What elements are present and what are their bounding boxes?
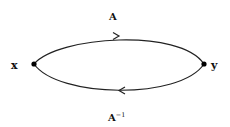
diagram-canvas: x y A A−1 (0, 0, 230, 127)
edge-lower-arc (34, 64, 204, 90)
node-y-dot (201, 61, 206, 66)
edge-upper-label: A (108, 11, 117, 22)
edge-upper-arc (34, 40, 204, 64)
edge-lower-label-base: A (107, 112, 116, 123)
node-x-label: x (11, 59, 18, 72)
edge-lower-label-sup: −1 (116, 111, 126, 119)
node-y-label: y (210, 59, 218, 72)
edge-lower-label: A−1 (107, 111, 125, 123)
node-x-dot (31, 61, 36, 66)
arrow-right-icon (113, 33, 119, 40)
